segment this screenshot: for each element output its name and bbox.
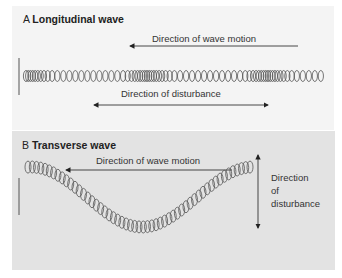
transverse-spring [25, 161, 253, 233]
wave-diagrams [0, 0, 342, 278]
longitudinal-spring [23, 71, 323, 82]
